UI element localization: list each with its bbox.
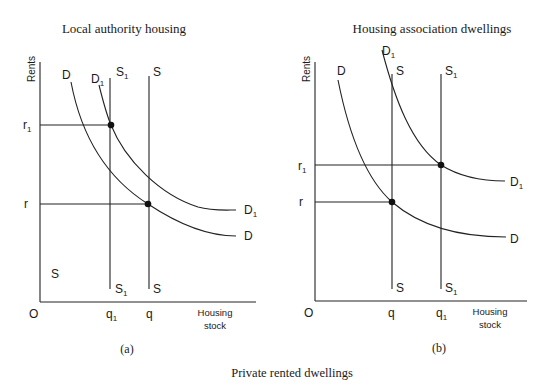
figure-caption: Private rented dwellings	[231, 366, 353, 380]
panel-a-origin-label: O	[29, 307, 38, 321]
panel-a-demand-d1-curve	[99, 85, 236, 210]
panel-b-label-d1-end: D1	[510, 175, 524, 191]
panel-b-origin-label: O	[304, 306, 313, 320]
panel-a-sublabel: (a)	[120, 342, 133, 356]
panel-a-label-s-top: S	[153, 65, 161, 79]
panel-b-x-axis-label-line1: Housing	[473, 306, 508, 317]
panel-a-y-axis-label: Rents	[26, 56, 37, 82]
panel-b: Housing association dwellings Rents D D1…	[298, 21, 527, 355]
panel-b-y-axis-label: Rents	[301, 56, 312, 82]
panel-a-x-axis-label-line1: Housing	[198, 307, 233, 318]
panel-a-equilibrium-point-r1	[108, 122, 115, 129]
panel-b-equilibrium-point-r1	[438, 162, 445, 169]
panel-b-sublabel: (b)	[432, 341, 446, 355]
panel-a-label-d1-top: D1	[91, 72, 105, 88]
diagram-canvas: Local authority housing Rents D D1 S1 S …	[0, 0, 549, 384]
panel-a-label-s-bottom: S	[153, 282, 161, 296]
panel-a-title: Local authority housing	[62, 21, 187, 36]
panel-a-label-d1-end: D1	[244, 203, 258, 219]
panel-a-equilibrium-point-r	[145, 201, 152, 208]
panel-a-label-d-end: D	[244, 229, 253, 243]
panel-b-label-d-end: D	[510, 232, 519, 246]
panel-b-price-r1-label: r1	[298, 159, 307, 175]
panel-b-label-s1-top: S1	[445, 64, 458, 80]
panel-a-label-s1-top: S1	[116, 65, 129, 81]
panel-b-qty-q-label: q	[388, 306, 395, 320]
panel-b-label-s1-bottom: S1	[445, 281, 458, 297]
panel-b-label-s-top: S	[396, 64, 404, 78]
panel-a: Local authority housing Rents D D1 S1 S …	[23, 21, 258, 356]
panel-a-price-r1-label: r1	[23, 118, 32, 134]
panel-a-label-d-top: D	[62, 68, 71, 82]
panel-b-qty-q1-label: q1	[436, 306, 448, 322]
panel-b-label-d1-top: D1	[382, 44, 396, 60]
panel-b-demand-d-curve	[338, 80, 506, 237]
panel-a-demand-d-curve	[71, 82, 236, 236]
panel-a-label-s1-bottom: S1	[115, 282, 128, 298]
panel-b-x-axis-label-line2: stock	[479, 319, 501, 330]
panel-b-label-s-bottom: S	[396, 281, 404, 295]
panel-b-price-r-label: r	[299, 195, 303, 209]
panel-a-x-axis-label-line2: stock	[204, 320, 226, 331]
panel-b-title: Housing association dwellings	[353, 21, 512, 36]
panel-a-price-r-label: r	[24, 197, 28, 211]
panel-b-equilibrium-point-r	[389, 199, 396, 206]
panel-a-label-stray-s: S	[51, 267, 59, 281]
panel-a-qty-q1-label: q1	[106, 307, 118, 323]
panel-b-label-d-top: D	[337, 64, 346, 78]
panel-a-qty-q-label: q	[146, 307, 153, 321]
